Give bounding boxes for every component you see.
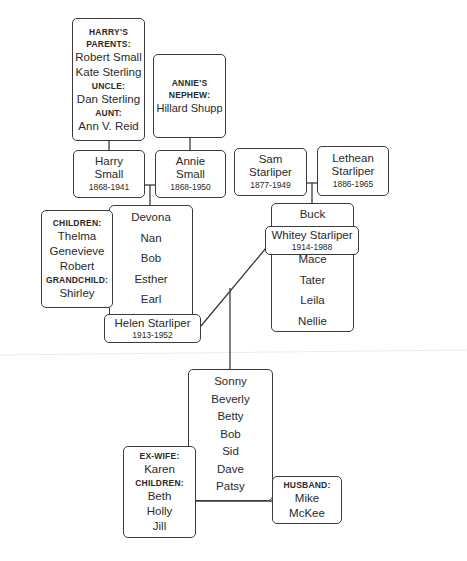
child-name: Bob <box>141 248 161 269</box>
parent-name: Robert Small <box>75 50 141 65</box>
child-name: Jill <box>153 519 166 534</box>
child-name: Holly <box>147 504 173 519</box>
child-name: Devona <box>131 207 171 228</box>
full-name: Helen Starliper <box>114 317 190 330</box>
first-name: Lethean <box>332 152 374 165</box>
life-years: 1868-1950 <box>170 182 211 193</box>
grandchild-label: GRANDCHILD: <box>46 274 108 286</box>
parent-name: Kate Sterling <box>76 65 142 80</box>
harrys-relatives-box: HARRY'S PARENTS: Robert Small Kate Sterl… <box>72 18 145 141</box>
person-sam-starliper: Sam Starliper 1877-1949 <box>234 148 307 196</box>
great-grandchild-name: Shirley <box>59 286 94 301</box>
first-name: Annie <box>176 155 205 168</box>
whitey-helen-children-box: Sonny Beverly Betty Bob Sid Dave Patsy <box>188 369 273 501</box>
husband-last-name: McKee <box>289 506 325 521</box>
child-name: Patsy <box>216 478 245 496</box>
patsy-husband-box: HUSBAND: Mike McKee <box>272 476 342 524</box>
first-name: Sam <box>259 153 283 166</box>
life-years: 1914-1988 <box>292 242 333 253</box>
child-name: Beverly <box>211 391 249 409</box>
grandchild-name: Thelma <box>58 229 96 244</box>
last-name: Starliper <box>332 165 375 178</box>
last-name: Small <box>95 168 124 181</box>
life-years: 1886-1965 <box>333 179 374 190</box>
child-name: Earl <box>141 289 161 310</box>
person-whitey-starliper: Whitey Starliper 1914-1988 <box>265 226 359 255</box>
aunt-label: AUNT: <box>95 107 122 119</box>
children-label: CHILDREN: <box>53 217 102 229</box>
life-years: 1877-1949 <box>250 180 291 191</box>
life-years: 1868-1941 <box>89 182 130 193</box>
starliper-children-box: Buck Mace Tater Leila Nellie <box>271 203 354 332</box>
husband-label: HUSBAND: <box>284 479 331 491</box>
child-name: Buck <box>300 204 326 225</box>
child-name: Nan <box>140 228 161 249</box>
uncle-label: UNCLE: <box>92 80 125 92</box>
devona-family-box: CHILDREN: Thelma Genevieve Robert GRANDC… <box>41 210 113 308</box>
small-children-box: Devona Nan Bob Esther Earl Harry <box>109 205 193 320</box>
aunt-name: Ann V. Reid <box>78 119 138 134</box>
harrys-parents-label: HARRY'S PARENTS: <box>84 26 134 50</box>
grandchild-name: Robert <box>60 259 95 274</box>
full-name: Whitey Starliper <box>271 229 352 242</box>
nephew-name: Hillard Shupp <box>156 101 222 116</box>
annies-nephew-label: ANNIE'S NEPHEW: <box>165 77 215 101</box>
child-name: Beth <box>148 489 172 504</box>
husband-first-name: Mike <box>295 491 319 506</box>
annies-nephew-box: ANNIE'S NEPHEW: Hillard Shupp <box>153 54 226 138</box>
children-label: CHILDREN: <box>135 477 184 489</box>
child-name: Nellie <box>298 311 327 332</box>
sid-family-box: EX-WIFE: Karen CHILDREN: Beth Holly Jill <box>123 446 196 538</box>
child-name: Leila <box>300 290 324 311</box>
person-harry-small: Harry Small 1868-1941 <box>73 150 145 198</box>
child-name: Tater <box>300 270 326 291</box>
child-name: Betty <box>217 408 243 426</box>
child-name: Dave <box>217 461 244 479</box>
last-name: Starliper <box>249 166 292 179</box>
child-name: Sid <box>222 443 239 461</box>
first-name: Harry <box>95 155 123 168</box>
exwife-name: Karen <box>144 462 175 477</box>
person-lethean-starliper: Lethean Starliper 1886-1965 <box>317 146 389 196</box>
exwife-label: EX-WIFE: <box>140 450 180 462</box>
last-name: Small <box>176 168 205 181</box>
child-name: Esther <box>134 269 167 290</box>
life-years: 1913-1952 <box>132 330 173 341</box>
person-annie-small: Annie Small 1868-1950 <box>155 150 226 198</box>
person-helen-starliper: Helen Starliper 1913-1952 <box>104 314 201 343</box>
uncle-name: Dan Sterling <box>77 92 140 107</box>
child-name: Sonny <box>214 373 247 391</box>
child-name: Bob <box>220 426 240 444</box>
grandchild-name: Genevieve <box>50 244 105 259</box>
